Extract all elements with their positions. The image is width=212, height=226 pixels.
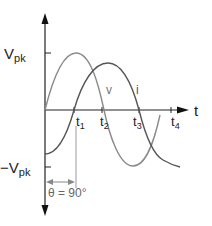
t1-label: t1	[76, 114, 85, 131]
t4-label: t4	[171, 114, 180, 131]
vpk-label: Vpk	[4, 45, 26, 64]
up-arrow-icon	[42, 13, 49, 24]
phase-arrow-right-icon	[68, 179, 75, 185]
t2-label: t2	[100, 114, 109, 131]
waveform-diagram: Vpk −Vpk t t1 t2 t3 t4 v i θ = 90°	[0, 0, 212, 226]
phase-angle-label: θ = 90°	[48, 186, 87, 200]
time-axis-label: t	[194, 102, 199, 119]
phase-arrow-left-icon	[46, 179, 53, 185]
neg-vpk-label: −Vpk	[0, 159, 31, 178]
down-arrow-icon	[42, 205, 49, 216]
i-curve-label: i	[136, 83, 139, 97]
v-curve-label: v	[106, 83, 112, 97]
right-arrow-icon	[177, 107, 189, 114]
